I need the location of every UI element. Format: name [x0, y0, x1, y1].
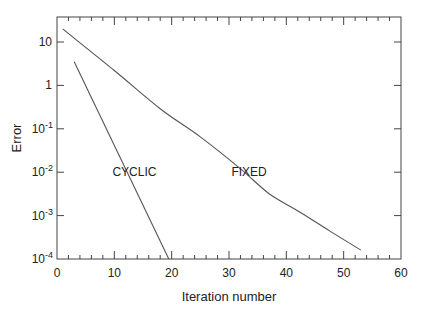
- x-tick-label: 60: [394, 266, 408, 280]
- series-labels: CYCLICFIXED: [112, 165, 267, 179]
- x-tick-label: 30: [222, 266, 236, 280]
- y-tick-label: 1: [45, 78, 52, 92]
- y-tick-label: 10-1: [32, 120, 53, 136]
- y-tick-label: 10-2: [32, 163, 53, 179]
- x-tick-label: 40: [280, 266, 294, 280]
- x-axis-ticks: 0102030405060: [54, 17, 408, 280]
- error-vs-iteration-chart: 0102030405060 10110-110-210-310-4 CYCLIC…: [0, 0, 421, 313]
- plot-frame: [57, 17, 401, 259]
- y-tick-label: 10-3: [32, 207, 53, 223]
- x-tick-label: 20: [165, 266, 179, 280]
- series-cyclic-line: [74, 62, 169, 259]
- y-axis-title: Error: [9, 123, 24, 153]
- y-axis-ticks: 10110-110-210-310-4: [32, 35, 401, 266]
- x-tick-label: 50: [337, 266, 351, 280]
- x-axis-title: Iteration number: [182, 289, 277, 304]
- series-cyclic-label: CYCLIC: [112, 165, 156, 179]
- series-group: [63, 29, 361, 259]
- series-fixed-label: FIXED: [231, 165, 267, 179]
- y-tick-label: 10: [39, 35, 53, 49]
- x-tick-label: 10: [108, 266, 122, 280]
- x-tick-label: 0: [54, 266, 61, 280]
- y-tick-label: 10-4: [32, 250, 53, 266]
- series-fixed-line: [63, 29, 361, 250]
